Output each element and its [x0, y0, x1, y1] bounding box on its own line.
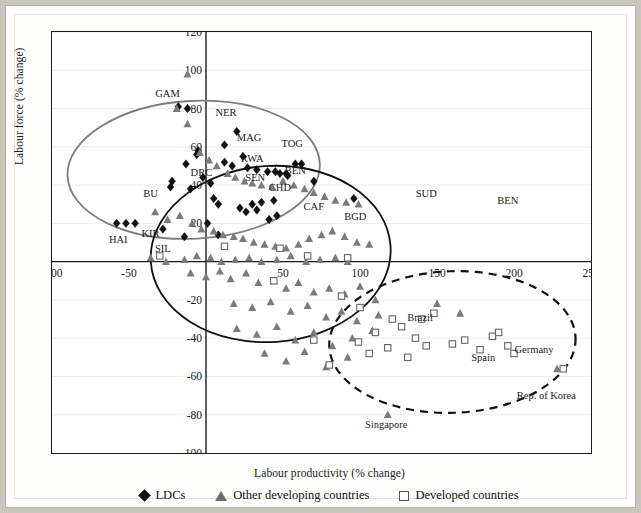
- data-point-diamond: [122, 219, 129, 227]
- data-point-triangle: [273, 323, 281, 331]
- data-point-square: [385, 345, 391, 351]
- square-icon: [399, 491, 409, 501]
- data-point-diamond: [270, 196, 277, 204]
- data-point-diamond: [221, 158, 228, 166]
- y-tick-label: -40: [187, 332, 203, 344]
- data-point-triangle: [273, 256, 281, 264]
- country-label: NER: [216, 107, 237, 118]
- data-point-diamond: [350, 194, 357, 202]
- x-tick-label: 250: [582, 267, 591, 279]
- figure-frame: -100-5050100150200250-100-80-60-40-20204…: [6, 6, 635, 507]
- scatter-chart-svg: -100-5050100150200250-100-80-60-40-20204…: [52, 32, 591, 453]
- data-point-square: [311, 337, 317, 343]
- data-point-diamond: [159, 225, 166, 233]
- data-point-square: [355, 339, 361, 345]
- data-point-triangle: [305, 234, 313, 242]
- data-point-triangle: [248, 303, 256, 311]
- data-point-square: [221, 243, 227, 249]
- data-point-square: [462, 337, 468, 343]
- data-point-diamond: [253, 206, 260, 214]
- country-label: CHD: [269, 182, 292, 193]
- country-label: GAM: [155, 88, 180, 99]
- data-point-triangle: [151, 208, 159, 216]
- data-point-triangle: [301, 347, 309, 355]
- legend-label-other-developing: Other developing countries: [233, 488, 369, 503]
- data-point-triangle: [187, 269, 195, 277]
- country-label: BGD: [344, 211, 367, 222]
- plot-area: -100-5050100150200250-100-80-60-40-20204…: [51, 31, 592, 454]
- chart-legend: LDCs Other developing countries Develope…: [15, 488, 641, 503]
- data-point-triangle: [328, 227, 336, 235]
- data-point-triangle: [287, 307, 295, 315]
- legend-item-other-developing: Other developing countries: [215, 488, 369, 503]
- data-point-triangle: [353, 317, 361, 325]
- data-point-diamond: [258, 198, 265, 206]
- country-label: Spain: [471, 352, 496, 363]
- data-point-diamond: [221, 141, 228, 149]
- data-point-diamond: [249, 200, 256, 208]
- x-axis-title: Labour productivity (% change): [15, 467, 641, 479]
- country-label: MAG: [237, 132, 262, 143]
- country-label: Brazil: [407, 312, 433, 323]
- data-point-square: [423, 343, 429, 349]
- country-label: SIL: [155, 243, 171, 254]
- data-point-triangle: [207, 254, 215, 262]
- data-point-triangle: [354, 200, 362, 208]
- data-point-triangle: [331, 196, 339, 204]
- data-point-triangle: [301, 185, 309, 193]
- data-point-triangle: [184, 120, 192, 128]
- data-point-square: [495, 329, 501, 335]
- data-point-triangle: [250, 238, 258, 246]
- data-point-square: [489, 333, 495, 339]
- x-tick-label: 50: [277, 267, 289, 279]
- y-tick-label: -20: [187, 294, 203, 306]
- data-point-diamond: [229, 162, 236, 170]
- country-label: TOG: [282, 138, 304, 149]
- data-point-triangle: [267, 298, 275, 306]
- data-point-triangle: [231, 256, 239, 264]
- data-point-square: [357, 304, 363, 310]
- data-point-triangle: [321, 192, 329, 200]
- data-point-triangle: [180, 256, 188, 264]
- data-point-square: [366, 350, 372, 356]
- country-label: Singapore: [365, 419, 408, 430]
- data-point-square: [449, 341, 455, 347]
- data-point-triangle: [325, 284, 333, 292]
- diamond-icon: [139, 489, 152, 502]
- data-point-diamond: [215, 200, 222, 208]
- data-point-triangle: [147, 254, 155, 262]
- data-point-triangle: [374, 311, 382, 319]
- data-point-triangle: [231, 173, 239, 181]
- data-point-square: [338, 293, 344, 299]
- data-point-triangle: [233, 324, 241, 332]
- data-point-triangle: [344, 353, 352, 361]
- data-point-triangle: [242, 269, 250, 277]
- data-point-square: [405, 354, 411, 360]
- data-point-diamond: [243, 208, 250, 216]
- data-point-triangle: [338, 307, 346, 315]
- legend-label-ldcs: LDCs: [155, 488, 185, 503]
- data-point-triangle: [282, 284, 290, 292]
- data-point-triangle: [316, 256, 324, 264]
- data-point-square: [398, 324, 404, 330]
- y-tick-label: -60: [187, 370, 203, 382]
- data-point-triangle: [176, 212, 184, 220]
- data-point-diamond: [273, 212, 280, 220]
- data-point-triangle: [342, 198, 350, 206]
- data-point-triangle: [261, 240, 269, 248]
- data-point-triangle: [356, 282, 364, 290]
- country-label: RWA: [241, 153, 264, 164]
- data-point-triangle: [304, 301, 312, 309]
- data-point-triangle: [456, 309, 464, 317]
- country-label: BEN: [285, 165, 306, 176]
- data-point-diamond: [132, 219, 139, 227]
- country-label: SEN: [245, 172, 265, 183]
- data-point-triangle: [216, 267, 224, 275]
- country-label: HAI: [109, 234, 128, 245]
- data-point-diamond: [236, 204, 243, 212]
- y-tick-label: -80: [187, 409, 203, 421]
- x-tick-label: 100: [351, 267, 369, 279]
- figure-inner-border: -100-5050100150200250-100-80-60-40-20204…: [14, 14, 627, 499]
- country-label: Germany: [514, 344, 554, 355]
- data-point-triangle: [253, 330, 261, 338]
